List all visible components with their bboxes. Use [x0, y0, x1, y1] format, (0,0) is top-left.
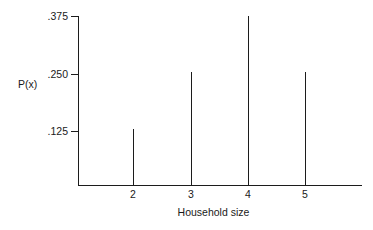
y-axis-tick-mark [71, 16, 78, 17]
y-axis-tick-label-text: .375 [28, 11, 68, 22]
data-spike-x5 [305, 72, 306, 185]
y-axis-tick-mark [71, 74, 78, 75]
x-axis-tick-label: 3 [176, 188, 206, 200]
y-axis-tick-mark [71, 131, 78, 132]
data-spike-x2 [133, 129, 134, 185]
y-axis-tick-label: .125 [23, 126, 68, 137]
x-axis-tick-label: 4 [233, 188, 263, 200]
x-axis-title-text: Household size [178, 206, 250, 218]
y-axis-tick-label: .375 [23, 11, 68, 22]
y-axis-line [78, 16, 79, 186]
probability-distribution-chart: .375 .250 .125 2 3 4 5 P(x) Household si… [0, 0, 373, 230]
data-spike-x3 [191, 72, 192, 185]
y-axis-tick-label-text: .125 [28, 126, 68, 137]
data-spike-x4 [248, 16, 249, 185]
y-axis-title: P(x) [18, 78, 37, 90]
x-axis-title: Household size [0, 206, 373, 218]
x-axis-tick-label: 5 [290, 188, 320, 200]
x-axis-tick-label: 2 [118, 188, 148, 200]
x-axis-line [78, 185, 362, 186]
